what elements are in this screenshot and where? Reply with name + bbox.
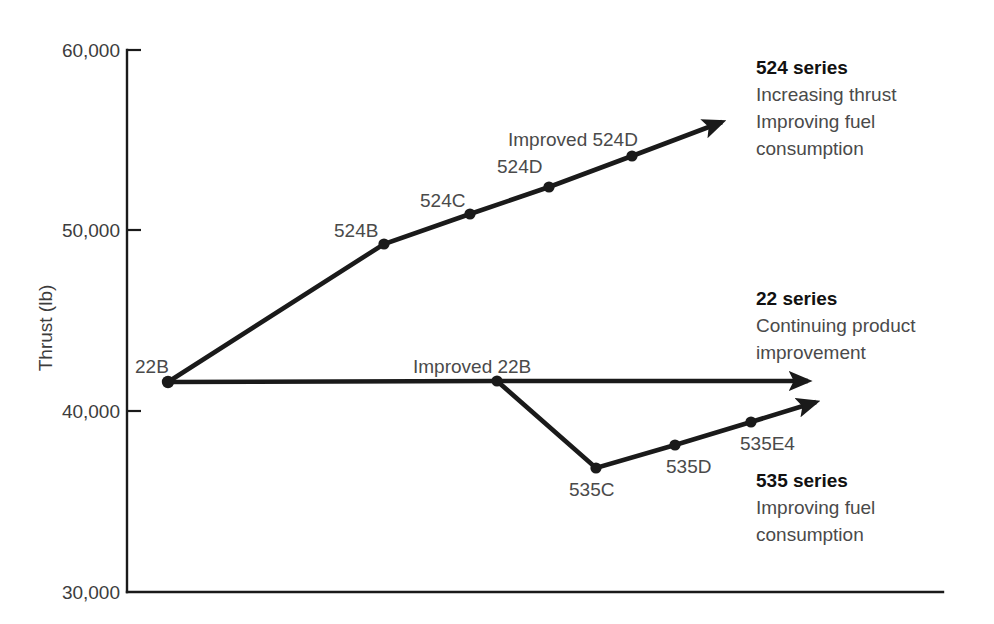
point-label-22b: 22B — [135, 356, 169, 377]
annotation-524-title: 524 series — [756, 57, 848, 78]
data-point-22b — [162, 376, 174, 388]
thrust-evolution-chart: 60,000 50,000 40,000 30,000 Thrust (lb) … — [0, 0, 994, 624]
annotation-22-line-1: Continuing product — [756, 315, 916, 336]
point-label-improved-22b: Improved 22B — [413, 356, 531, 377]
annotation-535-line-1: Improving fuel — [756, 497, 875, 518]
y-tick-label-60000: 60,000 — [62, 40, 120, 61]
point-label-535d: 535D — [666, 456, 711, 477]
series-line-524 — [168, 122, 722, 382]
point-label-improved-524d: Improved 524D — [508, 129, 638, 150]
annotation-535-series: 535 series Improving fuel consumption — [756, 470, 875, 545]
point-label-535e4: 535E4 — [740, 433, 795, 454]
series-line-22 — [168, 381, 808, 382]
data-point-524d — [543, 181, 554, 192]
y-tick-label-40000: 40,000 — [62, 401, 120, 422]
data-point-524c — [464, 208, 475, 219]
annotation-524-series: 524 series Increasing thrust Improving f… — [756, 57, 897, 159]
point-label-524c: 524C — [420, 190, 465, 211]
annotation-22-line-2: improvement — [756, 342, 867, 363]
annotation-535-line-2: consumption — [756, 524, 864, 545]
data-point-524b — [378, 238, 389, 249]
series-line-535 — [497, 381, 816, 468]
data-point-535d — [669, 439, 680, 450]
annotation-22-series: 22 series Continuing product improvement — [756, 288, 916, 363]
chart-container: 60,000 50,000 40,000 30,000 Thrust (lb) … — [0, 0, 994, 624]
y-tick-label-30000: 30,000 — [62, 582, 120, 603]
data-point-improved-524d — [626, 150, 637, 161]
y-tick-label-50000: 50,000 — [62, 220, 120, 241]
point-label-524d: 524D — [497, 156, 542, 177]
point-label-524b: 524B — [334, 220, 378, 241]
annotation-524-line-2: Improving fuel — [756, 111, 875, 132]
data-point-improved-22b — [491, 375, 502, 386]
data-point-535c — [590, 462, 601, 473]
data-point-535e4 — [745, 416, 756, 427]
y-axis-title: Thrust (lb) — [35, 285, 56, 372]
point-label-535c: 535C — [569, 479, 614, 500]
annotation-535-title: 535 series — [756, 470, 848, 491]
annotation-524-line-1: Increasing thrust — [756, 84, 897, 105]
annotation-524-line-3: consumption — [756, 138, 864, 159]
annotation-22-title: 22 series — [756, 288, 837, 309]
